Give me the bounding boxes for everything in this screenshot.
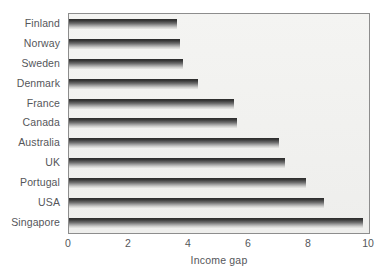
bar [69,19,177,29]
x-tick-label: 8 [305,237,311,249]
category-label: Australia [0,132,64,152]
x-axis-title: Income gap [68,254,370,266]
bar [69,178,306,188]
x-tick-label: 10 [362,237,374,249]
bar-slot [69,34,369,54]
category-label: Singapore [0,212,64,232]
bar [69,79,198,89]
category-label: Norway [0,33,64,53]
bar [69,99,234,109]
bar [69,39,180,49]
bar-slot [69,74,369,94]
x-tick-label: 2 [125,237,131,249]
bar-slot [69,14,369,34]
bar-slot [69,193,369,213]
bar [69,198,324,208]
x-tick-label: 4 [185,237,191,249]
x-tick-label: 0 [65,237,71,249]
bar [69,138,279,148]
category-label: Canada [0,113,64,133]
category-label: UK [0,152,64,172]
bar [69,218,363,228]
x-tick-label: 6 [245,237,251,249]
bar-slot [69,114,369,134]
bars-layer [69,14,369,233]
bar-slot [69,54,369,74]
x-axis: 0 2 4 6 8 10 [68,233,370,234]
plot-area [68,13,370,234]
bar-slot [69,153,369,173]
category-axis: Finland Norway Sweden Denmark France Can… [0,13,64,232]
bar-slot [69,133,369,153]
bar-slot [69,94,369,114]
bar-slot [69,173,369,193]
category-label: Finland [0,13,64,33]
category-label: Sweden [0,53,64,73]
bar [69,158,285,168]
category-label: France [0,93,64,113]
category-label: Portugal [0,172,64,192]
category-label: USA [0,192,64,212]
bar [69,59,183,69]
category-label: Denmark [0,73,64,93]
bar-slot [69,213,369,233]
bar [69,118,237,128]
bar-chart: Finland Norway Sweden Denmark France Can… [0,0,389,276]
